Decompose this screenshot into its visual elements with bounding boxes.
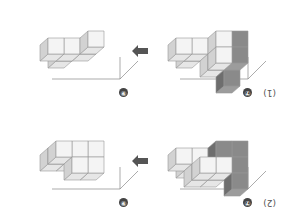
problem-2-label: (2): [263, 198, 276, 208]
dark-cube-front: [224, 70, 240, 86]
p2-arrow-icon: [132, 155, 148, 167]
dark-cube-front: [232, 157, 248, 173]
p1-after-axis-diag: [120, 61, 138, 79]
textbook-figure: (2) ⑦ ⑨ (1) ⑦ ⑨: [0, 0, 288, 219]
dark-cube-front: [232, 173, 248, 189]
problem-2-after-marker: ⑨: [119, 198, 128, 207]
light-cube-front: [72, 141, 88, 157]
light-cube-front: [200, 157, 216, 173]
light-cube-front: [216, 157, 232, 173]
light-cube-front: [88, 31, 104, 47]
p1-before-axis-diag: [248, 61, 266, 79]
light-cube-front: [176, 38, 192, 54]
light-cube-front: [72, 157, 88, 173]
light-cube-front: [176, 148, 192, 164]
dark-cube-front: [232, 47, 248, 63]
light-cube-front: [216, 31, 232, 47]
light-cube-front: [48, 38, 64, 54]
light-cube-front: [192, 38, 208, 54]
p2-before-axis-diag: [248, 171, 266, 189]
light-cube-front: [88, 141, 104, 157]
problem-1-label: (1): [263, 88, 276, 98]
p1-arrow-icon: [132, 45, 148, 57]
cube-diagram: [0, 0, 288, 219]
dark-cube-front: [232, 31, 248, 47]
light-cube-front: [88, 157, 104, 173]
problem-1-before-marker: ⑦: [243, 88, 252, 97]
problem-1-after-marker: ⑨: [119, 88, 128, 97]
problem-2-before-marker: ⑦: [243, 198, 252, 207]
light-cube-front: [64, 38, 80, 54]
dark-cube-front: [232, 141, 248, 157]
light-cube-front: [56, 141, 72, 157]
dark-cube-front: [216, 141, 232, 157]
p2-after-axis-diag: [120, 171, 138, 189]
light-cube-front: [216, 47, 232, 63]
